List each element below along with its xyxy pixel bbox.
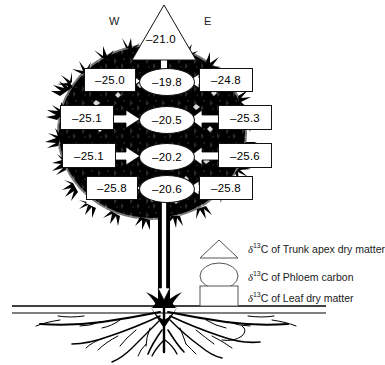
leaf-east-3: –25.6 <box>218 143 272 168</box>
leaf-east-4: –25.8 <box>199 176 253 200</box>
trunk-apex-value: –21.0 <box>146 33 176 45</box>
legend-text-2: C of Leaf dry matter <box>261 292 354 304</box>
legend-sup-2: 13 <box>253 291 261 298</box>
phloem-node-1: –19.8 <box>139 68 195 96</box>
phloem-node-3: –20.2 <box>139 143 195 171</box>
legend-sup-0: 13 <box>253 242 261 249</box>
compass-label-west: W <box>109 16 119 27</box>
leaf-west-4: –25.8 <box>86 176 138 200</box>
phloem-node-4: –20.6 <box>139 175 195 203</box>
legend-text-0: C of Trunk apex dry matter <box>261 243 385 255</box>
legend-symbols <box>200 240 238 306</box>
legend-rect-icon <box>200 286 238 306</box>
root-system <box>36 306 296 362</box>
legend-label-phloem: δ13C of Phloem carbon <box>248 270 354 283</box>
leaf-west-2: –25.1 <box>60 105 114 130</box>
compass-label-east: E <box>204 16 211 27</box>
legend-label-trunk-apex: δ13C of Trunk apex dry matter <box>248 242 385 255</box>
legend-label-leaf: δ13C of Leaf dry matter <box>248 291 353 304</box>
legend-text-1: C of Phloem carbon <box>261 271 354 283</box>
legend-sup-1: 13 <box>253 270 261 277</box>
leaf-east-2: –25.3 <box>218 105 272 130</box>
leaf-west-1: –25.0 <box>84 68 136 92</box>
leaf-west-3: –25.1 <box>62 143 116 168</box>
leaf-east-1: –24.8 <box>199 68 253 92</box>
canopy <box>45 36 257 230</box>
phloem-node-2: –20.5 <box>139 106 195 134</box>
legend-triangle-icon <box>200 240 238 258</box>
legend-ellipse-icon <box>200 263 238 289</box>
